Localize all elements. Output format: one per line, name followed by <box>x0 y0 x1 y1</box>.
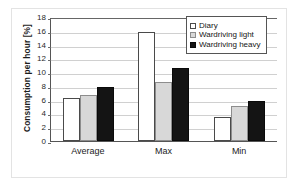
legend-item: Wardriving heavy <box>190 41 261 49</box>
y-tick-label: 6 <box>26 97 46 105</box>
x-axis-tick-labels: AverageMaxMin <box>50 146 277 156</box>
y-tick-label: 12 <box>26 55 46 63</box>
y-tick-label: 0 <box>26 138 46 146</box>
legend-label: Diary <box>199 22 218 30</box>
legend-item: Wardriving light <box>190 31 261 39</box>
y-axis-tick-labels: 024681012141618 <box>26 18 46 142</box>
bar <box>80 95 97 141</box>
chart-figure: Consumption per hour [%] 024681012141618… <box>0 0 298 188</box>
legend-label: Wardriving light <box>199 31 254 39</box>
bar <box>248 101 265 141</box>
bar <box>155 82 172 141</box>
bar <box>138 32 155 141</box>
chart-legend: DiaryWardriving lightWardriving heavy <box>186 16 267 54</box>
y-tick-label: 2 <box>26 124 46 132</box>
y-tick-label: 10 <box>26 69 46 77</box>
y-tick-label: 16 <box>26 28 46 36</box>
legend-swatch-icon <box>190 23 196 29</box>
legend-label: Wardriving heavy <box>199 41 261 49</box>
y-tick-label: 14 <box>26 42 46 50</box>
x-tick-label: Min <box>201 146 277 156</box>
bar-group <box>51 19 126 141</box>
y-tick-label: 4 <box>26 110 46 118</box>
legend-swatch-icon <box>190 42 196 48</box>
bar <box>231 106 248 141</box>
legend-swatch-icon <box>190 32 196 38</box>
y-tick-label: 18 <box>26 14 46 22</box>
y-tick-label: 8 <box>26 83 46 91</box>
x-tick-label: Max <box>126 146 202 156</box>
legend-item: Diary <box>190 22 261 30</box>
x-tick-label: Average <box>50 146 126 156</box>
bar <box>172 68 189 141</box>
bar <box>63 98 80 141</box>
y-axis-tick <box>48 143 51 144</box>
bar <box>97 87 114 141</box>
bar <box>214 117 231 141</box>
